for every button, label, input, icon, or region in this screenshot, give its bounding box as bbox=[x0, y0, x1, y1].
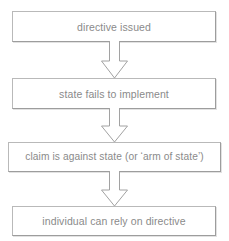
flow-node-individual-can-rely: individual can rely on directive bbox=[12, 206, 216, 236]
flow-node-label: individual can rely on directive bbox=[42, 215, 185, 227]
flow-node-state-fails-to-implement: state fails to implement bbox=[12, 78, 216, 109]
down-block-arrow-icon bbox=[99, 171, 130, 207]
flow-node-label: claim is against state (or ‘arm of state… bbox=[25, 151, 204, 163]
flow-node-label: state fails to implement bbox=[59, 88, 169, 100]
flow-node-claim-against-state: claim is against state (or ‘arm of state… bbox=[8, 142, 221, 172]
down-block-arrow-icon bbox=[99, 108, 130, 143]
flow-node-directive-issued: directive issued bbox=[12, 11, 216, 42]
flowchart-diagram: directive issued state fails to implemen… bbox=[0, 0, 229, 241]
flow-node-label: directive issued bbox=[77, 21, 151, 33]
down-block-arrow-icon bbox=[99, 41, 130, 79]
